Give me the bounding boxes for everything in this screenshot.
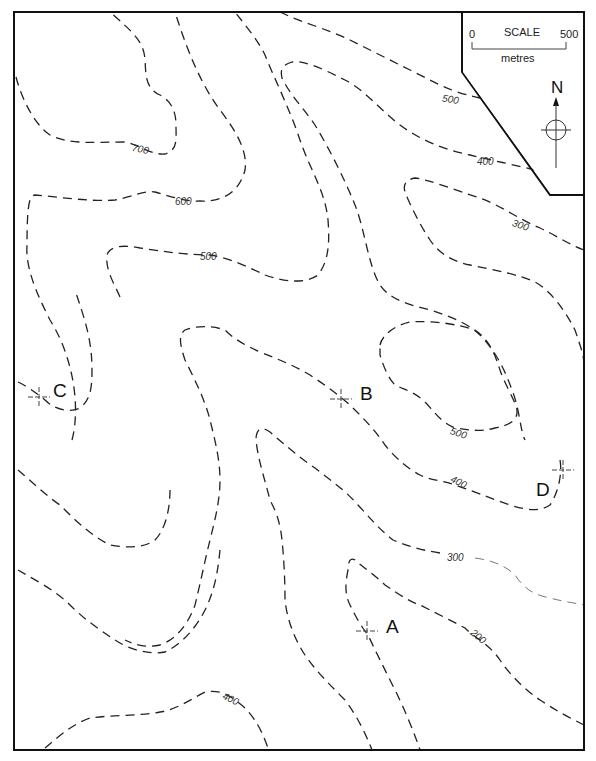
contour-200 — [346, 559, 584, 750]
point-a-marker: A — [356, 616, 399, 642]
contour-300-top — [404, 178, 584, 365]
contour-400-left-a — [18, 470, 170, 547]
contour-300-mid — [256, 429, 440, 750]
contour-label-500-hill: 500 — [449, 425, 469, 441]
scale-end-label: 500 — [560, 28, 578, 40]
point-label-d: D — [536, 479, 550, 500]
contour-300-mid-east — [475, 558, 584, 605]
contour-label-300-mid: 300 — [447, 552, 464, 563]
contour-label-700: 700 — [131, 142, 150, 156]
contour-label-400-mid: 400 — [449, 473, 469, 490]
contour-500-main — [107, 12, 329, 297]
point-label-b: B — [360, 383, 373, 404]
point-label-c: C — [53, 380, 67, 401]
contour-label-500-top: 500 — [441, 93, 459, 106]
contour-700 — [16, 12, 176, 154]
contour-500-top — [280, 12, 480, 98]
point-label-a: A — [386, 616, 399, 637]
contour-label-600: 600 — [175, 196, 192, 207]
scale-start-label: 0 — [469, 28, 475, 40]
contour-label-400-top: 400 — [477, 156, 494, 167]
contour-400-mid — [125, 327, 561, 647]
contour-600 — [27, 12, 246, 440]
scale-unit-label: metres — [501, 52, 535, 64]
contour-label-200: 200 — [468, 626, 489, 646]
contour-label-500-left: 500 — [200, 251, 217, 262]
point-c-marker: C — [28, 380, 67, 408]
contour-500-hill — [380, 322, 517, 431]
point-b-marker: B — [330, 383, 373, 410]
contour-label-300-top: 300 — [511, 217, 531, 233]
scale-title: SCALE — [504, 26, 540, 38]
topographic-map: 700 600 500 500 400 300 500 400 300 200 … — [0, 0, 596, 761]
contour-label-400-bottom: 400 — [221, 690, 241, 707]
north-label: N — [551, 78, 563, 97]
point-markers: C B D A — [28, 380, 574, 642]
contour-300-left — [18, 550, 220, 653]
